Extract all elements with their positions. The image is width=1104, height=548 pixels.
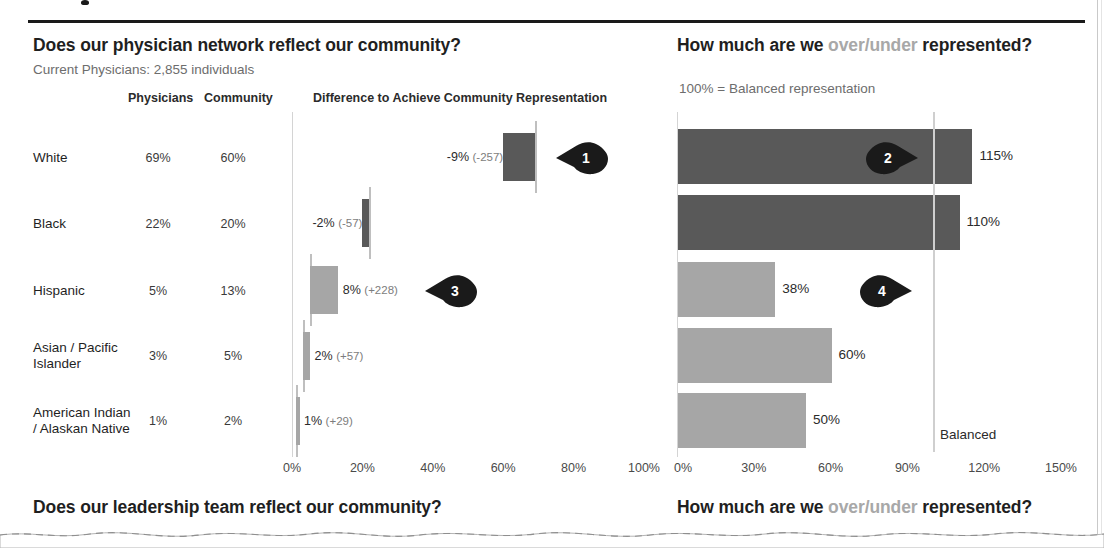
- physicians-value: 3%: [135, 349, 181, 363]
- right-axis-tick: 30%: [741, 461, 766, 475]
- physicians-value: 1%: [135, 414, 181, 428]
- callout-pin-2[interactable]: 2: [866, 140, 918, 176]
- balanced-reference-line: [933, 112, 935, 452]
- row-label-line1: Black: [33, 216, 66, 231]
- difference-bar: [303, 332, 310, 380]
- callout-pin-number: 2: [866, 140, 918, 176]
- column-header-physicians: Physicians: [128, 91, 193, 105]
- footer-right-part2: represented?: [918, 497, 1032, 517]
- footer-right-question: How much are we over/under represented?: [677, 497, 1032, 518]
- left-axis-tick: 100%: [628, 461, 660, 475]
- right-question-overunder: over/under: [828, 35, 917, 55]
- left-chart-question-text: Does our physician network reflect our c…: [33, 35, 461, 55]
- difference-count: (-57): [338, 217, 362, 229]
- left-chart-question: Does our physician network reflect our c…: [33, 35, 461, 56]
- right-question-part1: How much are we: [677, 35, 828, 55]
- column-header-difference: Difference to Achieve Community Represen…: [313, 91, 607, 105]
- community-value: 60%: [210, 151, 256, 165]
- callout-pin-number: 4: [860, 273, 912, 309]
- representation-bar-label: 115%: [979, 148, 1013, 163]
- community-value: 20%: [210, 217, 256, 231]
- row-label: Asian / PacificIslander: [33, 340, 118, 372]
- representation-bar: [678, 195, 960, 250]
- left-chart-subtitle: Current Physicians: 2,855 individuals: [33, 62, 254, 77]
- left-chart-subtitle-text: Current Physicians: 2,855 individuals: [33, 62, 254, 77]
- balanced-reference-label: Balanced: [940, 427, 996, 442]
- page-edge-line-outer: [1101, 0, 1102, 548]
- representation-bar: [678, 129, 972, 184]
- callout-pin-4[interactable]: 4: [860, 273, 912, 309]
- difference-pct: 2%: [315, 349, 333, 363]
- row-label: Hispanic: [33, 283, 85, 299]
- difference-bar: [310, 266, 338, 314]
- row-label-line2: / Alaskan Native: [33, 421, 131, 437]
- row-label-line1: White: [33, 150, 68, 165]
- difference-bar: [503, 133, 535, 181]
- physician-share-marker: [369, 187, 371, 259]
- left-axis-tick: 80%: [561, 461, 586, 475]
- difference-count: (+228): [364, 284, 398, 296]
- difference-pct: 8%: [343, 283, 361, 297]
- callout-pin-3[interactable]: 3: [425, 273, 477, 309]
- right-axis-tick: 150%: [1045, 461, 1077, 475]
- left-axis-tick: 20%: [350, 461, 375, 475]
- right-axis-tick: 60%: [818, 461, 843, 475]
- community-value: 13%: [210, 284, 256, 298]
- difference-count: (-257): [473, 151, 504, 163]
- left-chart-axis: [292, 112, 293, 457]
- row-label-line1: Asian / Pacific: [33, 340, 118, 356]
- row-label: American Indian/ Alaskan Native: [33, 405, 131, 437]
- difference-bar: [362, 199, 369, 247]
- row-label-line2: Islander: [33, 356, 118, 372]
- physician-share-marker: [535, 121, 537, 193]
- difference-bar-label: -9% (-257): [447, 150, 503, 164]
- right-axis-tick: 90%: [895, 461, 920, 475]
- row-label-line1: Hispanic: [33, 283, 85, 298]
- difference-pct: -2%: [312, 216, 334, 230]
- row-label-line1: American Indian: [33, 405, 131, 421]
- right-question-part2: represented?: [918, 35, 1032, 55]
- right-chart-question: How much are we over/under represented?: [677, 35, 1032, 56]
- footer-left-question-text: Does our leadership team reflect our com…: [33, 497, 442, 517]
- column-header-community: Community: [204, 91, 273, 105]
- left-axis-tick: 60%: [491, 461, 516, 475]
- page-edge-line: [1097, 0, 1098, 548]
- left-axis-tick: 40%: [420, 461, 445, 475]
- difference-bar-label: 8% (+228): [343, 283, 398, 297]
- right-chart-subtitle: 100% = Balanced representation: [679, 81, 875, 96]
- row-label: White: [33, 150, 68, 166]
- community-value: 2%: [210, 414, 256, 428]
- right-chart-subtitle-text: 100% = Balanced representation: [679, 81, 875, 96]
- representation-bar-label: 50%: [813, 412, 840, 427]
- callout-pin-number: 1: [556, 140, 608, 176]
- representation-bar-label: 60%: [839, 347, 866, 362]
- left-axis-tick: 0%: [283, 461, 301, 475]
- callout-pin-number: 3: [425, 273, 477, 309]
- difference-count: (+29): [326, 415, 353, 427]
- callout-pin-1[interactable]: 1: [556, 140, 608, 176]
- slide-canvas: Does our physician network reflect our c…: [0, 0, 1104, 548]
- row-label: Black: [33, 216, 66, 232]
- difference-pct: -9%: [447, 150, 469, 164]
- right-axis-tick: 120%: [968, 461, 1000, 475]
- footer-right-overunder: over/under: [828, 497, 917, 517]
- community-value: 5%: [210, 349, 256, 363]
- physicians-value: 69%: [135, 151, 181, 165]
- difference-count: (+57): [336, 350, 363, 362]
- representation-bar: [678, 262, 775, 317]
- torn-page-edge: [0, 526, 1104, 548]
- representation-bar-label: 110%: [967, 214, 1001, 229]
- right-axis-tick: 0%: [674, 461, 692, 475]
- difference-bar: [296, 397, 300, 445]
- top-ornament: [81, 0, 89, 5]
- footer-right-part1: How much are we: [677, 497, 828, 517]
- physicians-value: 5%: [135, 284, 181, 298]
- representation-bar: [678, 393, 806, 448]
- top-divider-rule: [28, 20, 1085, 23]
- representation-bar-label: 38%: [782, 281, 809, 296]
- footer-left-question: Does our leadership team reflect our com…: [33, 497, 442, 518]
- physicians-value: 22%: [135, 217, 181, 231]
- difference-pct: 1%: [304, 414, 322, 428]
- difference-bar-label: 1% (+29): [304, 414, 353, 428]
- difference-bar-label: 2% (+57): [315, 349, 364, 363]
